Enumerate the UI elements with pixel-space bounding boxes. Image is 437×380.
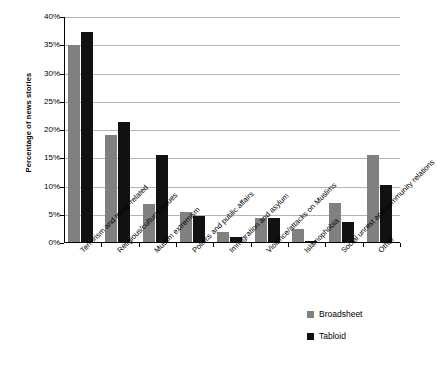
y-tick-label: 25% (14, 98, 60, 106)
y-tick-mark (60, 187, 64, 188)
y-tick-mark (60, 17, 64, 18)
legend-item: Tabloid (307, 332, 362, 341)
y-tick-label: 5% (14, 211, 60, 219)
legend-swatch-icon (307, 311, 314, 318)
legend-item: Broadsheet (307, 310, 362, 319)
y-tick-label: 10% (14, 183, 60, 191)
y-tick-label: 0% (14, 239, 60, 247)
y-tick-mark (60, 74, 64, 75)
x-tick-mark (139, 243, 140, 247)
y-tick-mark (60, 102, 64, 103)
legend-label: Tabloid (319, 332, 346, 341)
x-tick-mark (251, 243, 252, 247)
x-tick-mark (213, 243, 214, 247)
legend-label: Broadsheet (319, 310, 362, 319)
y-tick-mark (60, 215, 64, 216)
legend-swatch-icon (307, 333, 314, 340)
x-tick-mark (325, 243, 326, 247)
y-tick-mark (60, 130, 64, 131)
y-tick-label: 30% (14, 70, 60, 78)
y-tick-label: 20% (14, 126, 60, 134)
x-tick-mark (400, 243, 401, 247)
x-tick-mark (288, 243, 289, 247)
y-tick-label: 40% (14, 13, 60, 21)
x-tick-mark (101, 243, 102, 247)
x-tick-mark (363, 243, 364, 247)
y-tick-mark (60, 45, 64, 46)
y-tick-mark (60, 243, 64, 244)
y-tick-label: 15% (14, 154, 60, 162)
y-tick-mark (60, 158, 64, 159)
x-tick-mark (176, 243, 177, 247)
chart-legend: BroadsheetTabloid (307, 310, 362, 354)
y-tick-label: 35% (14, 41, 60, 49)
